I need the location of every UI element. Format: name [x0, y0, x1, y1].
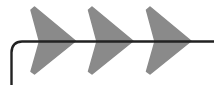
diagram-canvas — [0, 0, 214, 85]
flow-diagram-svg — [0, 0, 214, 85]
